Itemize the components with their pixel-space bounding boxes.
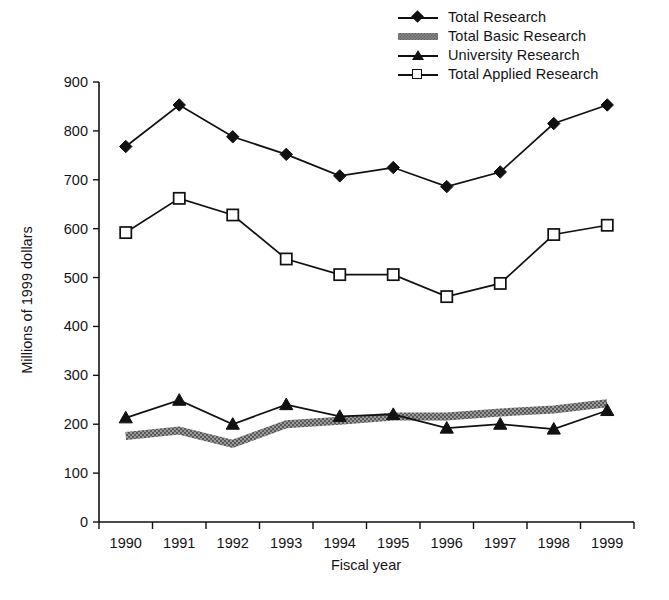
marker-square	[174, 193, 185, 204]
marker-diamond	[334, 170, 346, 182]
shaded-band-icon	[398, 33, 438, 40]
y-tick-label: 200	[64, 416, 88, 432]
figure-caption	[0, 586, 669, 600]
legend-label-total-basic-research: Total Basic Research	[440, 27, 586, 45]
x-axis-ticks: 1990199119921993199419951996199719981999	[99, 522, 634, 551]
marker-triangle	[494, 418, 507, 430]
legend-key-total-basic-research	[396, 27, 440, 45]
chart-figure: Total Research Total Basic Research Univ…	[0, 0, 669, 600]
x-axis-title: Fiscal year	[331, 557, 401, 573]
x-tick-label: 1993	[270, 535, 302, 551]
y-axis-title: Millions of 1999 dollars	[19, 226, 35, 374]
x-tick-label: 1995	[377, 535, 409, 551]
x-tick-label: 1991	[163, 535, 195, 551]
y-tick-label: 900	[64, 74, 88, 90]
marker-diamond	[387, 161, 399, 173]
marker-square	[602, 220, 613, 231]
line-path	[126, 105, 608, 187]
legend-item-total-basic-research: Total Basic Research	[396, 27, 661, 45]
legend-item-total-applied-research: Total Applied Research	[396, 65, 661, 83]
legend-key-total-research	[396, 8, 440, 26]
marker-triangle	[173, 394, 186, 406]
legend-item-total-research: Total Research	[396, 8, 661, 26]
chart-plot-area: 0100200300400500600700800900 19901991199…	[0, 0, 669, 600]
open-square-icon	[412, 69, 422, 79]
x-tick-label: 1990	[110, 535, 142, 551]
y-tick-label: 800	[64, 123, 88, 139]
series-total-research	[120, 99, 614, 193]
line-path	[126, 400, 608, 429]
legend-key-university-research	[396, 46, 440, 64]
legend-label-total-research: Total Research	[440, 8, 546, 26]
series-lines	[119, 99, 614, 444]
marker-square	[120, 227, 131, 238]
marker-square	[495, 278, 506, 289]
x-tick-label: 1994	[324, 535, 356, 551]
filled-triangle-icon	[412, 50, 424, 60]
y-tick-label: 300	[64, 367, 88, 383]
x-tick-label: 1998	[538, 535, 570, 551]
y-tick-label: 500	[64, 270, 88, 286]
y-axis-ticks: 0100200300400500600700800900	[64, 74, 99, 530]
marker-square	[441, 291, 452, 302]
series-total-applied-research	[120, 193, 613, 302]
x-tick-label: 1992	[217, 535, 249, 551]
y-tick-label: 700	[64, 172, 88, 188]
marker-square	[548, 229, 559, 240]
axis-lines	[99, 82, 634, 522]
line-path	[126, 198, 608, 296]
marker-diamond	[227, 131, 239, 143]
y-tick-label: 400	[64, 318, 88, 334]
x-tick-label: 1997	[484, 535, 516, 551]
marker-square	[334, 269, 345, 280]
legend-key-total-applied-research	[396, 65, 440, 83]
legend-label-university-research: University Research	[440, 46, 580, 64]
filled-diamond-icon	[411, 10, 424, 23]
chart-legend: Total Research Total Basic Research Univ…	[396, 8, 661, 84]
marker-diamond	[601, 99, 613, 111]
y-tick-label: 600	[64, 221, 88, 237]
x-tick-label: 1999	[591, 535, 623, 551]
marker-square	[227, 209, 238, 220]
x-tick-label: 1996	[431, 535, 463, 551]
legend-label-total-applied-research: Total Applied Research	[440, 65, 599, 83]
marker-diamond	[441, 180, 453, 192]
marker-square	[281, 253, 292, 264]
y-tick-label: 100	[64, 465, 88, 481]
marker-diamond	[280, 148, 292, 160]
marker-square	[388, 269, 399, 280]
y-tick-label: 0	[80, 514, 88, 530]
legend-item-university-research: University Research	[396, 46, 661, 64]
marker-triangle	[280, 398, 293, 410]
